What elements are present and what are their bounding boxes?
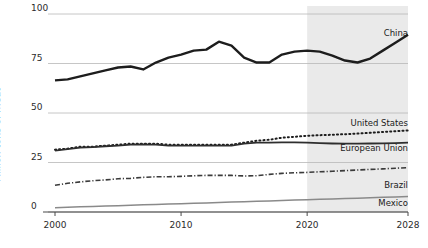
series-label-european-union: European Union [288,143,408,153]
series-label-united-states: United States [288,118,408,128]
y-tick-label: 0 [31,201,37,211]
y-axis-title: Million tons of meat [4,60,18,210]
x-tick-label: 2000 [33,220,77,230]
x-tick-label: 2010 [159,220,203,230]
meat-consumption-line-chart: Million tons of meat 0255075100 20002010… [0,0,428,248]
y-tick-label: 75 [31,53,42,63]
series-label-brazil: Brazil [288,180,408,190]
x-tick-label: 2020 [285,220,329,230]
axis-group [43,212,408,216]
y-axis-title-text: Million tons of meat [0,60,4,210]
y-tick-label: 25 [31,152,42,162]
y-tick-label: 100 [31,3,48,13]
series-label-china: China [288,28,408,38]
series-label-mexico: Mexico [288,198,408,208]
y-tick-label: 50 [31,102,42,112]
x-tick-label: 2028 [386,220,428,230]
